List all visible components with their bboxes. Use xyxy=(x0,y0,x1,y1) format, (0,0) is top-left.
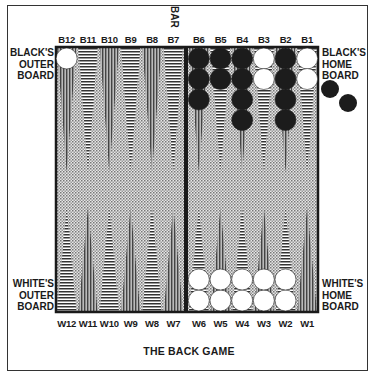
black-checker xyxy=(275,69,296,90)
white-checker xyxy=(188,290,209,311)
white-checker xyxy=(232,290,253,311)
white-checker xyxy=(297,48,318,69)
black-checker xyxy=(232,48,253,69)
white-checker xyxy=(232,269,253,290)
white-checker xyxy=(210,290,231,311)
black-checker xyxy=(232,89,253,110)
backgammon-board xyxy=(0,0,378,383)
black-checker xyxy=(210,69,231,90)
black-checker xyxy=(275,48,296,69)
white-checker xyxy=(275,269,296,290)
black-checker xyxy=(275,110,296,131)
white-checker xyxy=(253,69,274,90)
white-checker xyxy=(275,290,296,311)
black-checker xyxy=(232,69,253,90)
black-checker xyxy=(188,48,209,69)
black-checker xyxy=(188,89,209,110)
black-checker xyxy=(188,69,209,90)
white-checker xyxy=(56,48,77,69)
white-checker xyxy=(253,269,274,290)
borne-off-black-checker xyxy=(321,80,339,98)
black-checker xyxy=(232,110,253,131)
black-checker xyxy=(275,89,296,110)
white-checker xyxy=(210,269,231,290)
borne-off-black-checker xyxy=(339,94,357,112)
white-checker xyxy=(253,48,274,69)
bar xyxy=(184,47,188,312)
white-checker xyxy=(297,69,318,90)
white-checker xyxy=(188,269,209,290)
black-checker xyxy=(210,48,231,69)
white-checker xyxy=(253,290,274,311)
diagram-caption: THE BACK GAME xyxy=(0,345,378,357)
